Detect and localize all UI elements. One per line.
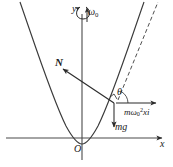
centrifugal-force-label: mω02xi xyxy=(124,107,150,117)
omega-glyph: ω xyxy=(88,6,95,17)
angular-velocity-label: ω0 xyxy=(88,7,98,18)
omega-subscript: 0 xyxy=(95,11,98,18)
force-unit-vector: i xyxy=(147,108,150,117)
normal-force-label: N xyxy=(55,57,63,68)
theta-arc xyxy=(122,92,128,103)
diagram-canvas xyxy=(0,0,173,167)
x-axis-label: x xyxy=(160,139,164,149)
physics-diagram: y ω0 N θ mω02xi mg O x xyxy=(0,0,173,167)
origin-label: O xyxy=(74,144,81,154)
tangent-line xyxy=(118,2,158,100)
angle-label: θ xyxy=(117,87,122,97)
y-axis-label: y xyxy=(72,4,76,14)
normal-force-vector xyxy=(63,69,114,103)
weight-label: mg xyxy=(115,122,127,132)
